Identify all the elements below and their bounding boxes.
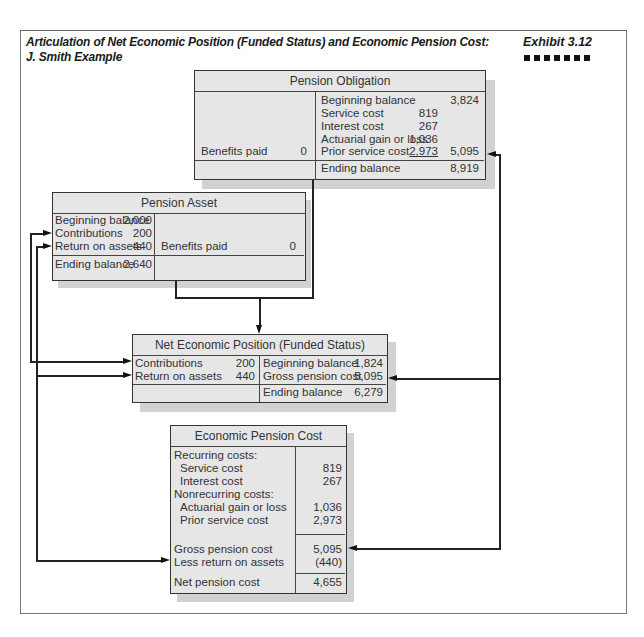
nep-contributions-label: Contributions [135, 357, 203, 369]
arrow-left-icon [388, 375, 397, 381]
arrow-right-icon [123, 372, 132, 378]
po-actuarial-value: 1,036 [395, 133, 438, 145]
po-service-cost-label: Service cost [321, 107, 384, 119]
nep-return-label: Return on assets [135, 370, 222, 382]
pa-beginning-balance-value: 2,000 [111, 214, 152, 226]
nep-beginning-balance-value: 1,824 [341, 357, 383, 369]
pension-asset-title: Pension Asset [53, 193, 305, 214]
value-column-divider [295, 446, 296, 593]
t-account-divider [259, 355, 260, 402]
po-ending-balance-value: 8,919 [435, 162, 479, 174]
arrow-right-icon [161, 557, 170, 563]
nep-return-value: 440 [213, 370, 255, 382]
return-to-nep-connector [36, 375, 124, 377]
title-line-2: J. Smith Example [26, 49, 489, 64]
epc-service-cost-label: Service cost [180, 462, 243, 474]
pa-benefits-paid-label: Benefits paid [161, 240, 228, 252]
balances-join-connector [175, 297, 314, 299]
nep-gross-cost-value: 5,095 [341, 370, 383, 382]
gross-to-obligation-connector [496, 154, 501, 156]
epc-net-cost-label: Net pension cost [174, 576, 260, 588]
economic-pension-cost-statement: Economic Pension Cost Recurring costs: S… [170, 425, 347, 594]
title-line-1: Articulation of Net Economic Position (F… [26, 34, 489, 49]
po-beginning-balance-label: Beginning balance [321, 94, 416, 106]
economic-pension-cost-title: Economic Pension Cost [171, 426, 346, 447]
arrow-left-icon [348, 545, 357, 551]
nep-ending-balance-value: 6,279 [341, 386, 383, 398]
epc-actuarial-value: 1,036 [299, 501, 342, 513]
po-ending-balance-label: Ending balance [321, 162, 400, 174]
po-prior-service-value: 2,973 [395, 145, 438, 157]
epc-interest-cost-value: 267 [299, 475, 342, 487]
epc-gross-cost-value: 5,095 [299, 543, 342, 555]
nep-ending-balance-label: Ending balance [263, 386, 342, 398]
epc-prior-service-label: Prior service cost [180, 514, 268, 526]
gross-to-cost-connector [356, 548, 501, 550]
po-service-cost-value: 819 [395, 107, 438, 119]
t-account-divider [315, 91, 316, 179]
contributions-connector [30, 233, 32, 361]
ending-balance-rule [195, 160, 484, 161]
epc-prior-service-value: 2,973 [299, 514, 342, 526]
net-total-rule [295, 573, 345, 574]
contributions-to-asset-connector [30, 233, 44, 235]
contributions-to-nep-connector [30, 361, 124, 363]
epc-actuarial-label: Actuarial gain or loss [180, 501, 287, 513]
epc-service-cost-value: 819 [299, 462, 342, 474]
epc-interest-cost-label: Interest cost [180, 475, 243, 487]
return-on-assets-connector [36, 246, 38, 560]
po-benefits-paid-value: 0 [265, 145, 307, 157]
return-to-cost-connector [36, 560, 162, 562]
arrow-right-icon [43, 243, 52, 249]
epc-less-return-label: Less return on assets [174, 556, 284, 568]
po-interest-cost-label: Interest cost [321, 120, 384, 132]
pa-contributions-value: 200 [111, 227, 152, 239]
po-beginning-balance-value: 3,824 [435, 94, 479, 106]
net-economic-position-account: Net Economic Position (Funded Status) Co… [132, 334, 388, 403]
ending-balance-rule [53, 255, 304, 256]
pension-obligation-account: Pension Obligation Benefits paid 0 Begin… [194, 70, 486, 180]
po-credit-subtotal: 5,095 [435, 145, 479, 157]
exhibit-number: Exhibit 3.12 [523, 34, 592, 49]
arrow-right-icon [123, 358, 132, 364]
nonrecurring-costs-heading: Nonrecurring costs: [174, 488, 274, 500]
obligation-to-nep-connector [312, 180, 314, 298]
net-economic-position-title: Net Economic Position (Funded Status) [133, 335, 387, 356]
asset-to-nep-connector [175, 281, 177, 298]
gross-to-nep-connector [396, 378, 500, 380]
pension-asset-account: Pension Asset Beginning balance 2,000 Co… [52, 192, 306, 281]
pa-benefits-paid-value: 0 [253, 240, 296, 252]
pa-return-value: 440 [111, 240, 152, 252]
exhibit-marker-squares [524, 55, 590, 61]
nep-drop-connector [259, 297, 261, 326]
ending-balance-rule [133, 384, 386, 385]
arrow-right-icon [43, 230, 52, 236]
recurring-costs-heading: Recurring costs: [174, 449, 257, 461]
epc-gross-cost-label: Gross pension cost [174, 543, 272, 555]
exhibit-title: Articulation of Net Economic Position (F… [26, 34, 489, 64]
epc-less-return-value: (440) [299, 556, 342, 568]
po-benefits-paid-label: Benefits paid [201, 145, 268, 157]
subtotal-rule [295, 534, 345, 535]
pension-obligation-title: Pension Obligation [195, 71, 485, 92]
t-account-divider [154, 213, 155, 280]
nep-contributions-value: 200 [213, 357, 255, 369]
arrow-left-icon [487, 151, 496, 157]
gross-pension-cost-connector [499, 154, 501, 549]
pa-ending-balance-value: 2,640 [111, 258, 152, 270]
po-interest-cost-value: 267 [395, 120, 438, 132]
arrow-down-icon [256, 325, 262, 334]
epc-net-cost-value: 4,655 [299, 576, 342, 588]
